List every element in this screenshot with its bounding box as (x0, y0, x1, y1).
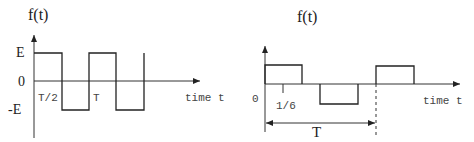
left-ytick-negE: -E (8, 102, 21, 117)
diagram-canvas: f(t) E 0 -E T/2 T time t f(t) 0 1/6 time… (0, 0, 474, 142)
right-xlabel: time t (423, 95, 463, 107)
left-ytick-zero: 0 (18, 74, 25, 89)
right-zero-label: 0 (252, 93, 259, 105)
right-pulse-positive-2 (376, 66, 414, 84)
right-pulse-positive-1 (265, 65, 302, 84)
left-xtick-period: T (93, 92, 100, 104)
right-tick-label: 1/6 (276, 100, 296, 112)
right-chart: f(t) 0 1/6 time t T (252, 8, 463, 140)
left-xtick-half-period: T/2 (38, 92, 58, 104)
left-xlabel: time t (185, 92, 225, 104)
right-pulse-negative (320, 84, 358, 104)
left-ylabel: f(t) (28, 6, 48, 24)
right-period-label: T (312, 124, 321, 140)
right-ylabel: f(t) (297, 8, 317, 26)
left-chart: f(t) E 0 -E T/2 T time t (8, 6, 225, 138)
left-ytick-E: E (16, 45, 25, 60)
